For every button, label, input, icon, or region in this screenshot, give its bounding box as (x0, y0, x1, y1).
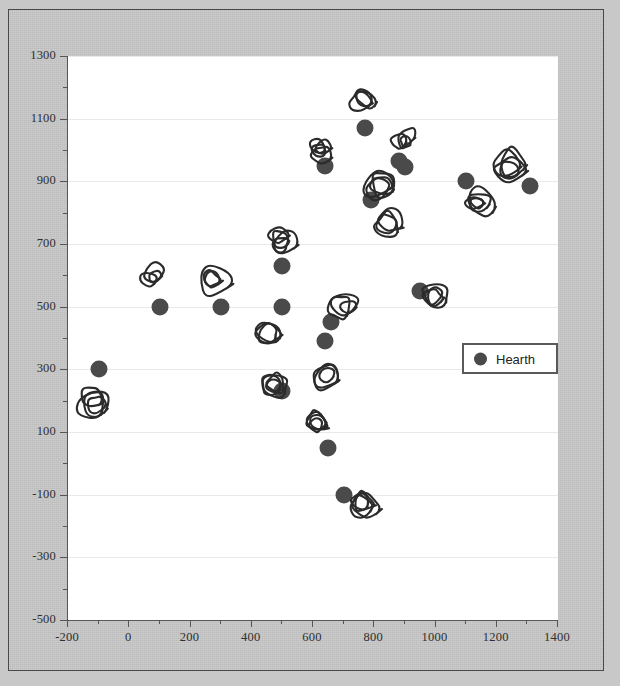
y-tick-label: -300 (32, 549, 56, 564)
y-tick-minor (63, 463, 67, 464)
scribble-glyph (367, 204, 409, 246)
x-tick-major (435, 620, 436, 627)
y-tick-label: 500 (37, 299, 56, 314)
scribble-glyph (304, 356, 346, 398)
scatter-point (274, 298, 291, 315)
x-tick-label: 0 (98, 630, 158, 645)
y-tick-major (60, 432, 67, 433)
scatter-point (320, 439, 337, 456)
x-tick-label: 1200 (466, 630, 526, 645)
scribble-glyph (70, 380, 112, 422)
y-tick-major (60, 495, 67, 496)
scatter-point (213, 298, 230, 315)
x-tick-major (190, 620, 191, 627)
x-tick-major (557, 620, 558, 627)
y-tick-label: 1300 (30, 48, 56, 63)
scatter-point (323, 314, 340, 331)
legend-label-hearth: Hearth (496, 351, 535, 366)
x-tick-label: 600 (282, 630, 342, 645)
x-tick-major (67, 620, 68, 627)
scatter-point (274, 257, 291, 274)
y-tick-label: -500 (32, 612, 56, 627)
legend-box[interactable]: Hearth (462, 343, 558, 374)
scribble-glyph (341, 79, 383, 121)
y-tick-major (60, 620, 67, 621)
x-tick-major (373, 620, 374, 627)
y-tick-minor (63, 275, 67, 276)
y-tick-label: 1100 (31, 111, 56, 126)
gridline (68, 432, 558, 433)
y-tick-major (60, 56, 67, 57)
x-tick-minor (159, 620, 160, 624)
scribble-glyph (194, 259, 236, 301)
y-tick-minor (63, 589, 67, 590)
scatter-point (396, 159, 413, 176)
y-tick-major (60, 181, 67, 182)
y-tick-major (60, 307, 67, 308)
x-tick-major (251, 620, 252, 627)
y-tick-label: 100 (37, 424, 56, 439)
scatter-point (522, 178, 539, 195)
scatter-point (317, 333, 334, 350)
gridline (68, 307, 558, 308)
x-tick-major (128, 620, 129, 627)
scribble-glyph (131, 257, 173, 299)
scatter-point (363, 192, 380, 209)
scribble-glyph (263, 218, 305, 260)
scatter-point (274, 383, 291, 400)
y-tick-minor (63, 338, 67, 339)
y-tick-minor (63, 87, 67, 88)
scatter-point (335, 486, 352, 503)
gridline (68, 495, 558, 496)
x-tick-minor (526, 620, 527, 624)
scribble-glyph (344, 482, 386, 524)
x-tick-minor (404, 620, 405, 624)
scatter-point (357, 120, 374, 137)
y-tick-minor (63, 526, 67, 527)
y-tick-minor (63, 150, 67, 151)
x-tick-minor (465, 620, 466, 624)
x-tick-minor (98, 620, 99, 624)
scatter-point (317, 157, 334, 174)
x-tick-label: 1400 (527, 630, 587, 645)
y-tick-label: -100 (32, 487, 56, 502)
x-tick-label: -200 (37, 630, 97, 645)
y-tick-label: 900 (37, 173, 56, 188)
gridline (68, 119, 558, 120)
x-tick-major (496, 620, 497, 627)
scatter-point (412, 283, 429, 300)
x-tick-minor (281, 620, 282, 624)
scatter-point (458, 173, 475, 190)
scatter-point (151, 298, 168, 315)
x-tick-minor (343, 620, 344, 624)
x-tick-minor (220, 620, 221, 624)
x-tick-label: 800 (343, 630, 403, 645)
gridline (68, 181, 558, 182)
y-tick-major (60, 557, 67, 558)
gridline (68, 56, 558, 57)
y-tick-label: 700 (37, 236, 56, 251)
y-tick-major (60, 244, 67, 245)
y-tick-minor (63, 401, 67, 402)
x-tick-label: 400 (221, 630, 281, 645)
legend-marker-hearth (474, 352, 487, 365)
scatter-point (90, 361, 107, 378)
gridline (68, 557, 558, 558)
x-tick-label: 200 (160, 630, 220, 645)
y-tick-major (60, 369, 67, 370)
y-tick-major (60, 119, 67, 120)
figure-canvas: 13001100900700500300100-100-300-500 -200… (0, 0, 620, 686)
x-tick-major (312, 620, 313, 627)
gridline (68, 244, 558, 245)
scribble-glyph (248, 311, 290, 353)
y-tick-minor (63, 213, 67, 214)
y-tick-label: 300 (37, 361, 56, 376)
plot-area (67, 56, 558, 621)
x-tick-label: 1000 (405, 630, 465, 645)
